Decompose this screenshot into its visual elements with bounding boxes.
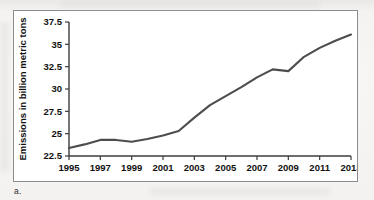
x-tick-label: 1995 bbox=[58, 162, 80, 173]
x-tick-label: 2013 bbox=[340, 162, 357, 173]
x-tick-label: 1997 bbox=[90, 162, 111, 173]
y-tick-label: 32.5 bbox=[44, 61, 63, 72]
y-tick-label: 22.5 bbox=[44, 150, 63, 161]
line-chart: 22.52527.53032.53537.5 19951997199920012… bbox=[14, 11, 357, 181]
y-axis-ticks: 22.52527.53032.53537.5 bbox=[44, 16, 70, 161]
figure-caption-label: a. bbox=[14, 186, 22, 196]
x-tick-label: 2001 bbox=[152, 162, 174, 173]
x-tick-label: 2005 bbox=[215, 162, 237, 173]
figure-frame: 22.52527.53032.53537.5 19951997199920012… bbox=[13, 10, 358, 182]
y-tick-label: 25 bbox=[51, 128, 62, 139]
scan-artifact-bottom bbox=[150, 188, 330, 195]
y-tick-label: 27.5 bbox=[44, 106, 63, 117]
page-background: 22.52527.53032.53537.5 19951997199920012… bbox=[0, 0, 374, 200]
scan-artifact-top bbox=[60, 2, 320, 7]
data-series-line bbox=[69, 35, 351, 148]
x-tick-label: 2009 bbox=[278, 162, 299, 173]
x-tick-label: 1999 bbox=[121, 162, 142, 173]
y-tick-label: 35 bbox=[51, 39, 62, 50]
y-axis-title: Emissions in billion metric tons bbox=[17, 17, 28, 160]
x-tick-label: 2003 bbox=[184, 162, 205, 173]
y-tick-label: 30 bbox=[51, 83, 62, 94]
scan-artifact-left bbox=[0, 22, 9, 172]
x-tick-label: 2007 bbox=[246, 162, 267, 173]
y-tick-label: 37.5 bbox=[44, 16, 63, 27]
x-tick-label: 2011 bbox=[309, 162, 330, 173]
chart-plot-area: 22.52527.53032.53537.5 19951997199920012… bbox=[14, 11, 357, 181]
x-axis-ticks: 1995199719992001200320052007200920112013 bbox=[58, 156, 357, 173]
